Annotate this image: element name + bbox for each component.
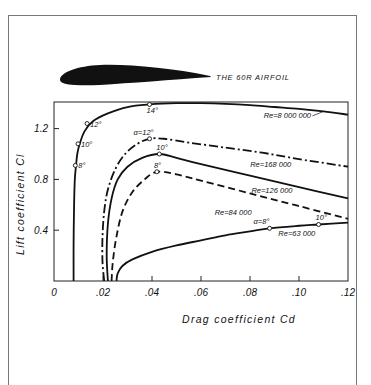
y-tick-label: 0.8	[34, 174, 48, 185]
angle-marker	[73, 163, 77, 167]
angle-marker	[85, 122, 89, 126]
angle-marker	[268, 226, 272, 230]
x-tick-label: 0	[51, 287, 57, 298]
y-tick-label: 1.2	[34, 123, 48, 134]
reynolds-label: Re=63 000	[278, 229, 316, 238]
angle-marker	[155, 170, 159, 174]
angle-marker	[317, 222, 321, 226]
airfoil-shape	[60, 65, 211, 85]
curve-3	[112, 172, 348, 281]
angle-marker	[148, 137, 152, 141]
angle-label: 10°	[81, 140, 92, 149]
angle-label: 14°	[147, 106, 158, 115]
airfoil-label: THE 60R AIRFOIL	[216, 73, 290, 82]
x-tick-label: .12	[341, 287, 355, 298]
x-tick-label: .04	[145, 287, 159, 298]
leader-line	[312, 111, 323, 115]
reynolds-label: Re=126 000	[251, 186, 293, 195]
angle-marker	[157, 152, 161, 156]
y-tick-label: 0.4	[34, 225, 48, 236]
curves	[74, 103, 348, 281]
angle-label: 8°	[154, 161, 161, 170]
angle-label: 12°	[90, 120, 101, 129]
y-axis-title: Lift coefficient Cl	[14, 153, 26, 255]
x-axis-title: Drag coefficient Cd	[182, 313, 296, 325]
angle-label: α=8°	[254, 217, 270, 226]
x-tick-label: .02	[96, 287, 110, 298]
angle-label: 10°	[156, 143, 167, 152]
angle-label: 8°	[78, 161, 85, 170]
angle-label: α=12°	[134, 128, 154, 137]
curve-0	[74, 103, 348, 281]
reynolds-label: Re=8 000 000	[264, 111, 312, 120]
x-tick-label: .10	[292, 287, 306, 298]
angle-marker	[76, 142, 80, 146]
curve-2	[107, 154, 348, 281]
x-tick-label: .06	[194, 287, 208, 298]
plot-area	[54, 102, 348, 281]
reynolds-label: Re=168 000	[250, 160, 292, 169]
angle-label: 10°	[316, 213, 327, 222]
axis-ticks: 0.02.04.06.08.10.120.40.81.2	[34, 123, 355, 298]
x-tick-label: .08	[243, 287, 257, 298]
reynolds-label: Re=84 000	[215, 208, 253, 217]
